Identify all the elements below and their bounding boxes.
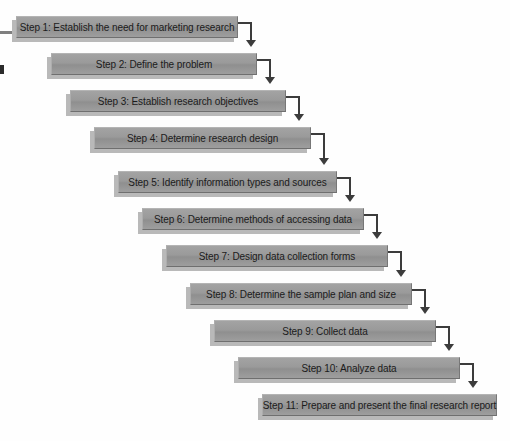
connector-arrow-step10-to-step11 xyxy=(460,363,480,391)
connector-arrowhead-icon xyxy=(396,270,406,277)
connector-arrowhead-icon xyxy=(265,77,275,84)
connector-arrowhead-icon xyxy=(345,195,355,202)
process-step-3: Step 3: Establish research objectives xyxy=(70,90,286,112)
process-step-7: Step 7: Design data collection forms xyxy=(166,245,388,267)
process-step-label: Step 2: Define the problem xyxy=(89,59,219,70)
connector-arrowhead-icon xyxy=(468,381,478,388)
connector-arrow-step6-to-step7 xyxy=(364,214,384,242)
process-step-6: Step 6: Determine methods of accessing d… xyxy=(142,208,364,230)
connector-arrowhead-icon xyxy=(420,307,430,314)
process-step-label: Step 1: Establish the need for marketing… xyxy=(13,22,242,33)
process-step-label: Step 9: Collect data xyxy=(275,326,374,337)
process-step-11: Step 11: Prepare and present the final r… xyxy=(262,394,497,416)
connector-arrowhead-icon xyxy=(246,40,256,47)
margin-block-artifact xyxy=(0,65,4,74)
connector-arrowhead-icon xyxy=(372,232,382,239)
connector-arrow-step9-to-step10 xyxy=(436,326,456,354)
process-step-1: Step 1: Establish the need for marketing… xyxy=(16,16,238,38)
connector-vertical-segment xyxy=(424,289,426,308)
connector-vertical-segment xyxy=(323,133,325,159)
process-step-label: Step 7: Design data collection forms xyxy=(192,251,362,262)
process-step-10: Step 10: Analyze data xyxy=(238,357,460,379)
process-step-label: Step 8: Determine the sample plan and si… xyxy=(199,289,403,300)
connector-vertical-segment xyxy=(298,96,300,115)
connector-arrow-step8-to-step9 xyxy=(412,289,432,317)
process-step-2: Step 2: Define the problem xyxy=(51,53,257,75)
connector-vertical-segment xyxy=(400,251,402,271)
connector-arrowhead-icon xyxy=(319,158,329,165)
process-step-9: Step 9: Collect data xyxy=(214,320,436,342)
connector-vertical-segment xyxy=(472,363,474,382)
process-step-label: Step 5: Identify information types and s… xyxy=(121,177,333,188)
process-step-label: Step 4: Determine research design xyxy=(120,133,285,144)
connector-arrowhead-icon xyxy=(294,114,304,121)
connector-vertical-segment xyxy=(448,326,450,345)
process-step-4: Step 4: Determine research design xyxy=(94,127,311,149)
process-step-label: Step 3: Establish research objectives xyxy=(91,96,265,107)
connector-arrow-step7-to-step8 xyxy=(388,251,408,280)
connector-vertical-segment xyxy=(349,177,351,196)
connector-arrow-step5-to-step6 xyxy=(337,177,357,205)
connector-vertical-segment xyxy=(269,59,271,78)
connector-arrowhead-icon xyxy=(444,344,454,351)
process-step-5: Step 5: Identify information types and s… xyxy=(118,171,337,193)
connector-arrow-step4-to-step5 xyxy=(311,133,331,168)
process-step-label: Step 11: Prepare and present the final r… xyxy=(256,400,503,411)
connector-vertical-segment xyxy=(376,214,378,233)
connector-vertical-segment xyxy=(250,22,252,41)
flowchart-canvas: Step 1: Establish the need for marketing… xyxy=(0,0,510,441)
process-step-8: Step 8: Determine the sample plan and si… xyxy=(190,283,412,305)
process-step-label: Step 6: Determine methods of accessing d… xyxy=(147,214,359,225)
process-step-label: Step 10: Analyze data xyxy=(294,363,403,374)
connector-arrow-step2-to-step3 xyxy=(257,59,277,87)
connector-arrow-step3-to-step4 xyxy=(286,96,306,124)
